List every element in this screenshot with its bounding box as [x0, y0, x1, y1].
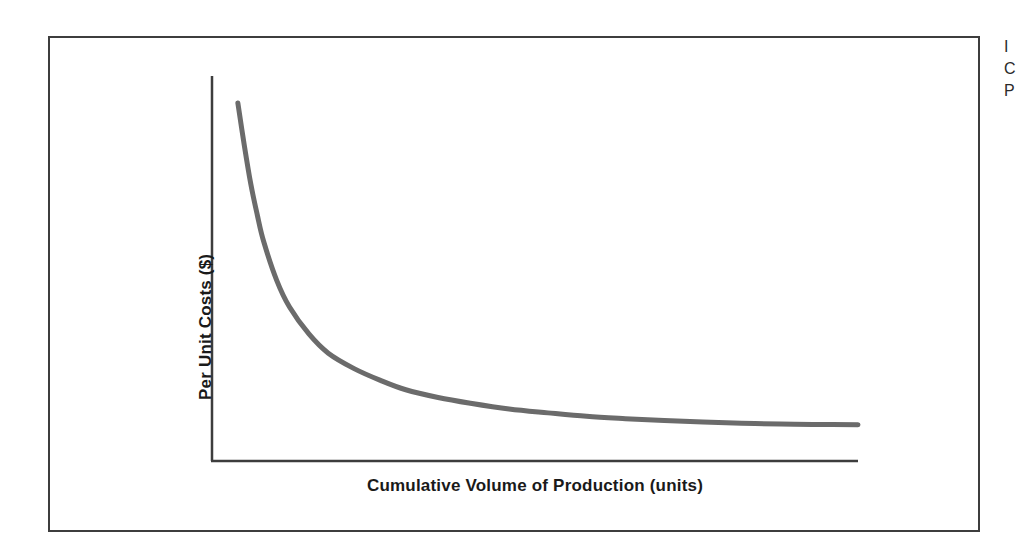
- experience-curve-chart: [48, 36, 980, 532]
- y-axis-label-text: Per Unit Costs (: [196, 269, 215, 400]
- y-axis-label-close: ): [196, 254, 215, 260]
- margin-caption-line-3: P: [1004, 80, 1030, 102]
- y-axis-label: Per Unit Costs ($): [196, 100, 216, 400]
- cost-curve-path: [238, 103, 858, 425]
- figure-root: Per Unit Costs ($) Cumulative Volume of …: [0, 0, 1030, 552]
- margin-caption-line-1: I: [1004, 36, 1030, 58]
- margin-caption: I C P: [1004, 36, 1030, 116]
- y-axis-label-currency: $: [196, 260, 215, 270]
- margin-caption-line-2: C: [1004, 58, 1030, 80]
- x-axis-label: Cumulative Volume of Production (units): [212, 476, 858, 496]
- plot-area: [48, 36, 980, 532]
